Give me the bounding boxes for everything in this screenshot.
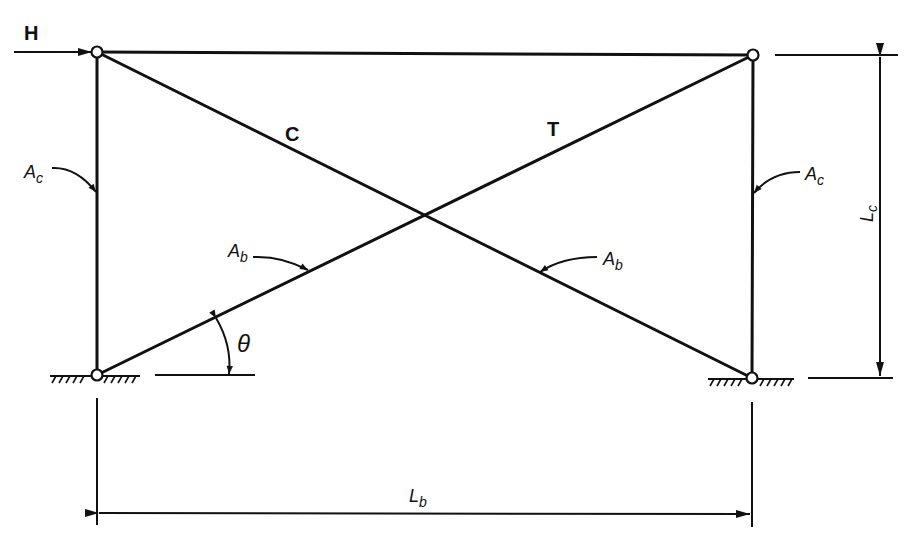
load-label-h: H (24, 22, 38, 44)
width-dimension: Lb (97, 398, 752, 527)
height-dimension: Lc (775, 55, 898, 378)
column-area-right-label: A (804, 164, 817, 184)
brace-area-right-label: A (602, 249, 615, 269)
brace-area-left-label: A (227, 241, 240, 261)
joint-top-left (92, 47, 103, 58)
tension-label: T (547, 118, 559, 140)
joint-top-right (748, 50, 759, 61)
svg-text:Ab: Ab (602, 249, 623, 273)
svg-text:Lb: Lb (409, 486, 427, 510)
width-dimension-label: L (409, 486, 419, 506)
svg-text:Ac: Ac (23, 162, 43, 186)
joint-bottom-right (747, 373, 758, 384)
column-area-left-label: A (23, 162, 36, 182)
angle-annotation: θ (155, 318, 255, 375)
tension-diagonal (97, 55, 753, 375)
svg-text:Lc: Lc (857, 205, 880, 222)
column-area-right-annotation: Ac (754, 164, 824, 193)
svg-text:Ab: Ab (227, 241, 248, 265)
braced-frame-diagram: H C T (0, 0, 913, 548)
brace-area-right-annotation: Ab (540, 249, 623, 273)
column-area-left-annotation: Ac (23, 162, 96, 192)
angle-label-theta: θ (237, 330, 250, 357)
frame-members (97, 52, 753, 378)
right-column (752, 55, 753, 378)
brace-area-left-annotation: Ab (227, 241, 308, 270)
joint-bottom-left (92, 370, 103, 381)
height-dimension-label: L (857, 212, 877, 222)
svg-text:Ac: Ac (804, 164, 824, 188)
compression-label: C (285, 123, 299, 145)
top-beam (97, 52, 753, 55)
